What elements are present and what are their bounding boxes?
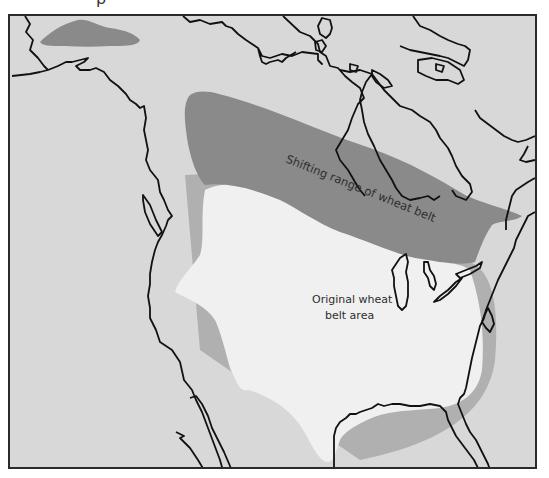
alaska-wheat-patch [40, 20, 140, 47]
small-island [350, 64, 358, 72]
arctic-island-4 [436, 64, 444, 72]
arctic-island-1 [318, 18, 332, 38]
labrador-coast [475, 110, 535, 162]
arctic-coastline [183, 16, 322, 64]
map-title-fragment: p [96, 0, 106, 8]
original-area-label-line1: Original wheat [312, 293, 393, 306]
southampton-island [372, 70, 392, 88]
baja-peninsula-outline [176, 396, 235, 469]
north-america-map: Shifting range of wheat belt Original wh… [8, 14, 537, 469]
vancouver-island-outline [143, 195, 162, 236]
map-frame: Shifting range of wheat belt Original wh… [8, 14, 537, 469]
original-area-label-line2: belt area [325, 309, 374, 322]
